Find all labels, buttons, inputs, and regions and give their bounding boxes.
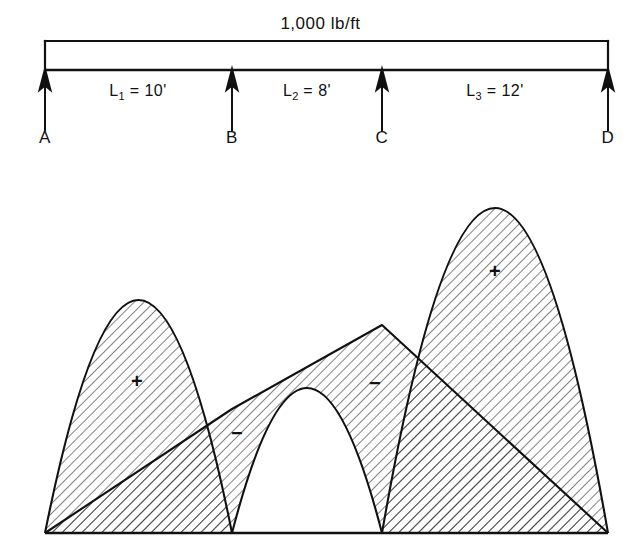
sign-negative-near-b: − (231, 423, 243, 443)
cutout-below-baseline (0, 534, 641, 546)
sign-negative-near-c: − (369, 373, 381, 393)
sign-positive-span-1: + (131, 371, 143, 391)
moment-diagram (0, 0, 641, 546)
bending-moment-figure: 1,000 lb/ft L1 = 10' L2 = 8' L3 = 12' A … (0, 0, 641, 546)
sign-positive-span-3: + (489, 261, 501, 281)
